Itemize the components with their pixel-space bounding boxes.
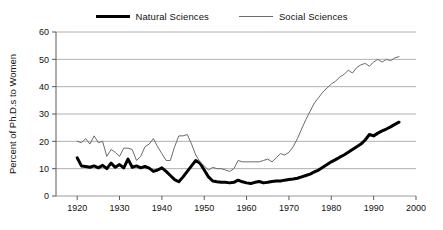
x-axis: 192019301940195019601970198019902000 xyxy=(67,196,426,213)
x-axis-tick-label: 1930 xyxy=(110,203,130,213)
x-axis-tick-label: 1970 xyxy=(279,203,299,213)
data-series xyxy=(77,57,399,184)
y-axis-tick-label: 0 xyxy=(44,191,49,201)
series-line xyxy=(77,122,399,183)
x-axis-tick-label: 1960 xyxy=(237,203,257,213)
x-axis-tick-label: 1940 xyxy=(152,203,172,213)
y-axis-tick-label: 40 xyxy=(39,82,49,92)
y-axis-tick-label: 30 xyxy=(39,109,49,119)
y-axis-tick-label: 50 xyxy=(39,55,49,65)
y-axis-title: Percent of Ph.D.s to Women xyxy=(7,54,18,174)
x-axis-tick-label: 1990 xyxy=(364,203,384,213)
y-axis-tick-label: 20 xyxy=(39,137,49,147)
x-axis-tick-label: 1980 xyxy=(321,203,341,213)
chart-container: Natural Sciences Social Sciences 0102030… xyxy=(0,0,443,230)
gridlines xyxy=(56,32,416,196)
y-axis: 0102030405060 xyxy=(39,27,56,201)
y-axis-tick-label: 10 xyxy=(39,164,49,174)
x-axis-tick-label: 1920 xyxy=(67,203,87,213)
x-axis-tick-label: 2000 xyxy=(406,203,426,213)
x-axis-tick-label: 1950 xyxy=(194,203,214,213)
chart-plot-area: 0102030405060 19201930194019501960197019… xyxy=(0,0,443,230)
y-axis-tick-label: 60 xyxy=(39,27,49,37)
